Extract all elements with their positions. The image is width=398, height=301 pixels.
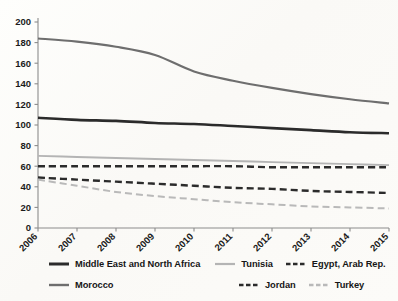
series-line <box>38 156 389 165</box>
y-tick-label: 120 <box>15 99 31 110</box>
legend-label-turkey: Turkey <box>335 280 365 290</box>
y-tick-label: 160 <box>15 58 31 69</box>
series-line <box>38 180 389 209</box>
series-line <box>38 118 389 133</box>
legend-swatch-egypt <box>285 259 307 269</box>
legend-item-tunisia: Tunisia <box>214 259 273 269</box>
series-line <box>38 38 389 103</box>
legend-row-1: Middle East and North Africa Tunisia Egy… <box>0 253 398 274</box>
x-tick-label: 2008 <box>95 231 118 254</box>
y-tick-label: 140 <box>15 78 31 89</box>
y-tick-label: 180 <box>15 37 31 48</box>
plot-svg: 0204060801001201401601802002006200720082… <box>0 0 398 258</box>
legend-label-tunisia: Tunisia <box>241 259 273 269</box>
x-tick-label: 2013 <box>290 231 313 254</box>
x-tick-label: 2014 <box>329 230 352 253</box>
legend-label-mena: Middle East and North Africa <box>75 259 200 269</box>
legend-swatch-mena <box>48 259 70 269</box>
legend-swatch-jordan <box>238 280 260 290</box>
y-tick-label: 60 <box>20 161 31 172</box>
legend-item-mena: Middle East and North Africa <box>48 259 200 269</box>
legend-item-turkey: Turkey <box>308 280 365 290</box>
y-tick-label: 40 <box>20 181 31 192</box>
x-tick-label: 2011 <box>212 230 235 253</box>
legend-item-morocco: Morocco <box>48 280 238 290</box>
legend-row-2: Morocco Jordan Turkey <box>0 274 398 295</box>
series-line <box>38 166 389 167</box>
x-tick-label: 2009 <box>134 231 157 254</box>
y-tick-label: 200 <box>15 16 31 27</box>
legend-swatch-morocco <box>48 280 70 290</box>
legend-swatch-tunisia <box>214 259 236 269</box>
line-chart: 0204060801001201401601802002006200720082… <box>0 0 398 301</box>
plot-area: 0204060801001201401601802002006200720082… <box>0 0 398 258</box>
x-tick-label: 2007 <box>56 231 79 254</box>
y-tick-label: 100 <box>15 119 31 130</box>
x-tick-label: 2010 <box>173 231 196 254</box>
x-tick-label: 2012 <box>251 231 274 254</box>
chart-legend: Middle East and North Africa Tunisia Egy… <box>0 253 398 301</box>
legend-item-egypt: Egypt, Arab Rep. <box>285 259 386 269</box>
x-tick-label: 2015 <box>368 230 391 253</box>
series-line <box>38 178 389 193</box>
legend-label-egypt: Egypt, Arab Rep. <box>312 259 386 269</box>
legend-item-jordan: Jordan <box>238 280 296 290</box>
legend-label-morocco: Morocco <box>75 280 113 290</box>
y-tick-label: 20 <box>20 202 31 213</box>
y-tick-label: 80 <box>20 140 31 151</box>
x-tick-label: 2006 <box>17 231 40 254</box>
legend-label-jordan: Jordan <box>265 280 296 290</box>
legend-swatch-turkey <box>308 280 330 290</box>
